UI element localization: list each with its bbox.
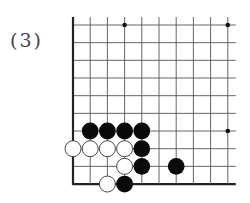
black-stone-icon xyxy=(82,123,99,140)
star-point-icon xyxy=(226,23,231,28)
black-stone-icon xyxy=(133,140,150,157)
white-stone-icon xyxy=(117,141,133,157)
black-stone-icon xyxy=(99,123,116,140)
black-stone-icon xyxy=(116,176,133,193)
star-point-icon xyxy=(226,129,231,134)
black-stone-icon xyxy=(116,123,133,140)
white-stone-icon xyxy=(99,141,115,157)
black-stone-icon xyxy=(133,158,150,175)
black-stone-icon xyxy=(168,158,185,175)
white-stone-icon xyxy=(99,176,115,192)
white-stone-icon xyxy=(82,141,98,157)
board-grid xyxy=(73,17,236,185)
white-stone-icon xyxy=(65,141,81,157)
white-stone-icon xyxy=(117,158,133,174)
black-stone-icon xyxy=(133,123,150,140)
star-point-icon xyxy=(122,23,127,28)
go-board xyxy=(0,0,250,203)
